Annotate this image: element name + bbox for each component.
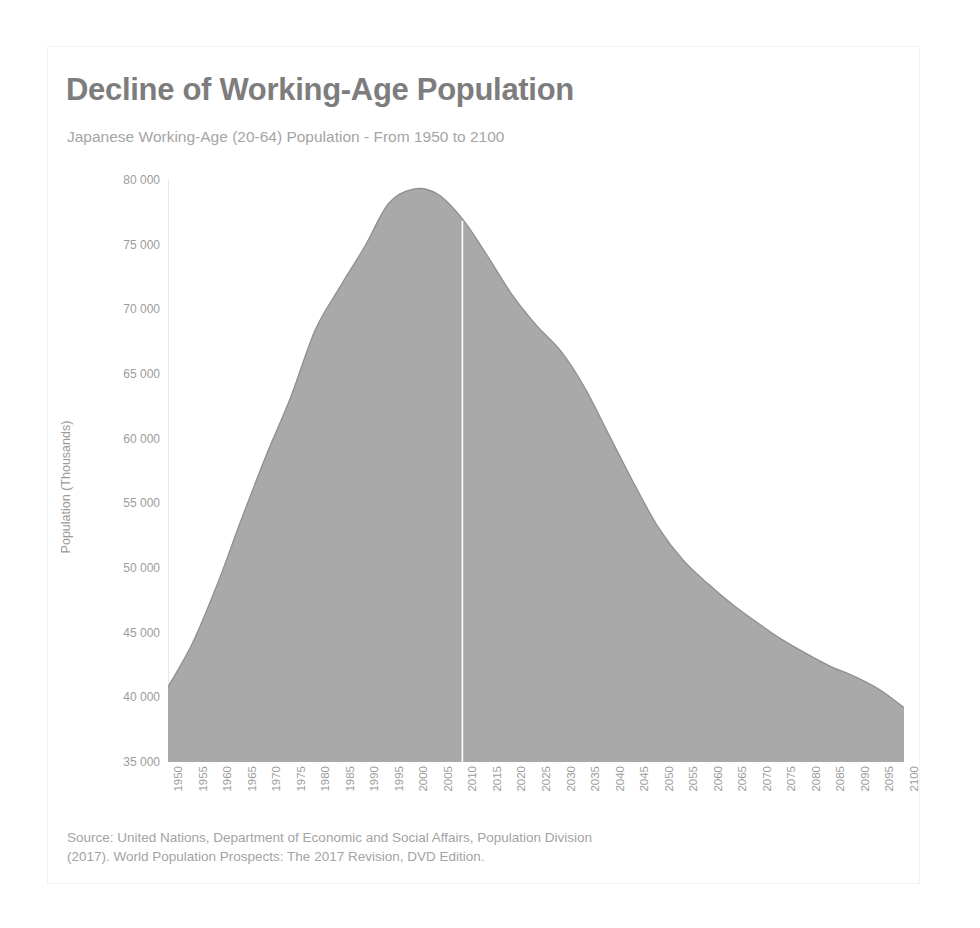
x-tick-label: 1950 (172, 766, 184, 792)
x-tick-label: 2005 (442, 766, 454, 792)
y-tick-label: 70 000 (84, 302, 160, 316)
x-tick-label: 2070 (761, 766, 773, 792)
y-tick-label: 45 000 (84, 626, 160, 640)
x-tick-label: 1990 (368, 766, 380, 792)
page-title: Decline of Working-Age Population (66, 72, 574, 108)
x-tick-label: 1995 (393, 766, 405, 792)
x-tick-label: 1960 (221, 766, 233, 792)
source-line-1: Source: United Nations, Department of Ec… (67, 828, 867, 847)
y-axis-tick-labels: 80 00075 00070 00065 00060 00055 00050 0… (84, 180, 160, 762)
x-tick-label: 2000 (417, 766, 429, 792)
chart-page: Decline of Working-Age Population Japane… (0, 0, 980, 928)
y-tick-label: 40 000 (84, 690, 160, 704)
x-tick-label: 2060 (712, 766, 724, 792)
x-axis-tick-labels: 1950195519601965197019751980198519901995… (168, 766, 904, 818)
x-tick-label: 2050 (663, 766, 675, 792)
population-area-series (168, 189, 904, 762)
x-tick-label: 2080 (810, 766, 822, 792)
x-tick-label: 2035 (589, 766, 601, 792)
area-chart-plot (168, 180, 904, 762)
x-tick-label: 2090 (859, 766, 871, 792)
area-chart-svg (168, 180, 904, 762)
x-tick-label: 2020 (515, 766, 527, 792)
y-tick-label: 50 000 (84, 561, 160, 575)
y-axis-title: Population (Thousands) (59, 372, 73, 602)
x-tick-label: 2065 (736, 766, 748, 792)
x-tick-label: 2015 (491, 766, 503, 792)
y-tick-label: 80 000 (84, 173, 160, 187)
y-tick-label: 75 000 (84, 238, 160, 252)
page-subtitle: Japanese Working-Age (20-64) Population … (67, 128, 504, 146)
x-tick-label: 1965 (246, 766, 258, 792)
x-tick-label: 1955 (197, 766, 209, 792)
x-tick-label: 2030 (565, 766, 577, 792)
x-tick-label: 2055 (687, 766, 699, 792)
x-tick-label: 1975 (295, 766, 307, 792)
y-tick-label: 35 000 (84, 755, 160, 769)
x-tick-label: 2075 (785, 766, 797, 792)
x-tick-label: 2025 (540, 766, 552, 792)
x-tick-label: 2085 (834, 766, 846, 792)
source-note: Source: United Nations, Department of Ec… (67, 828, 867, 866)
x-tick-label: 1970 (270, 766, 282, 792)
source-line-2: (2017). World Population Prospects: The … (67, 847, 867, 866)
x-tick-label: 2045 (638, 766, 650, 792)
y-tick-label: 65 000 (84, 367, 160, 381)
x-tick-label: 1980 (319, 766, 331, 792)
y-tick-label: 55 000 (84, 496, 160, 510)
x-tick-label: 2095 (883, 766, 895, 792)
x-tick-label: 2010 (466, 766, 478, 792)
y-tick-label: 60 000 (84, 432, 160, 446)
x-tick-label: 2040 (614, 766, 626, 792)
x-tick-label: 1985 (344, 766, 356, 792)
x-tick-label: 2100 (908, 766, 920, 792)
